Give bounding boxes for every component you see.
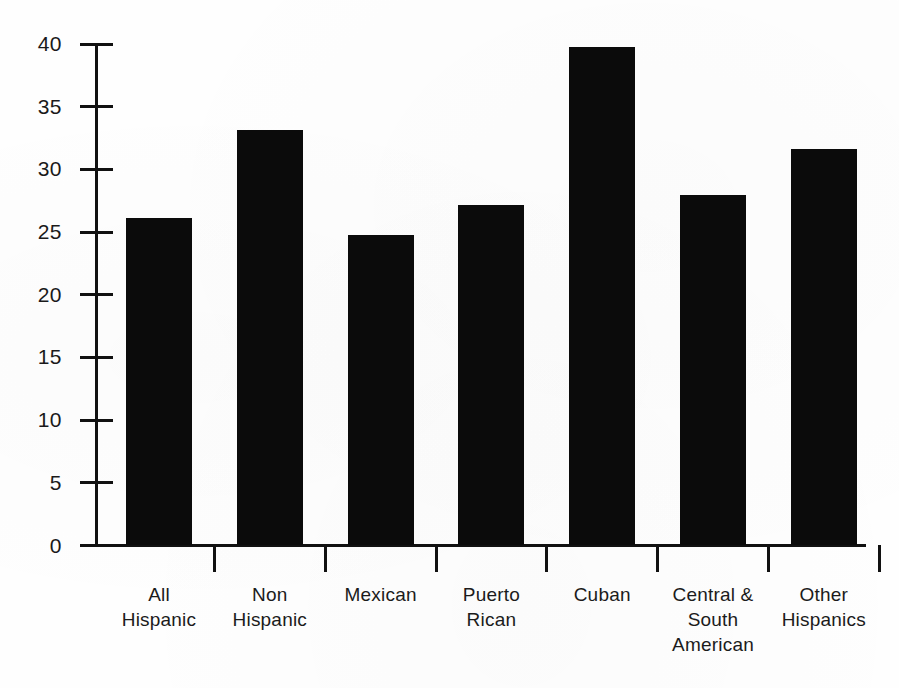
y-axis-tick: [80, 231, 113, 234]
y-axis-tick-label-text: 30: [18, 158, 62, 179]
y-axis-tick-label: 35: [12, 96, 62, 117]
x-axis-category-label-line: Hispanics: [749, 607, 899, 632]
y-axis-tick: [80, 43, 113, 46]
x-axis-category-label-line: American: [638, 632, 788, 657]
y-axis-tick-label: 30: [12, 158, 62, 179]
x-axis-category-label: OtherHispanics: [749, 582, 899, 632]
y-axis-tick-label-text: 40: [18, 33, 62, 54]
bar: [237, 130, 303, 545]
y-axis-tick-label-text: 25: [18, 221, 62, 242]
y-axis-tick-label: 25: [12, 221, 62, 242]
bar: [680, 195, 746, 545]
bar: [126, 218, 192, 545]
y-axis-tick-label: 10: [12, 409, 62, 430]
y-axis-tick-label: 20: [12, 284, 62, 305]
y-axis-tick: [80, 481, 113, 484]
x-axis-tick: [656, 545, 659, 572]
x-axis-category-label-line: Rican: [416, 607, 566, 632]
y-axis-tick-label-text: 35: [18, 96, 62, 117]
x-axis-category-label-line: Other: [749, 582, 899, 607]
y-axis-tick-label: 15: [12, 346, 62, 367]
x-axis-tick: [324, 545, 327, 572]
bar-chart: 0510152025303540 AllHispanicNonHispanicM…: [0, 0, 899, 688]
bar: [791, 149, 857, 545]
y-axis-tick-label-text: 20: [18, 284, 62, 305]
bar: [458, 205, 524, 545]
x-axis-tick: [878, 545, 881, 572]
y-axis-tick-label: 0: [12, 535, 62, 556]
x-axis-category-label-line: Hispanic: [195, 607, 345, 632]
y-axis-tick-label: 40: [12, 33, 62, 54]
y-axis-tick-label-text: 10: [18, 409, 62, 430]
bar: [348, 235, 414, 545]
bar: [569, 47, 635, 545]
x-axis-tick: [767, 545, 770, 572]
y-axis-tick: [80, 419, 113, 422]
y-axis-tick: [80, 293, 113, 296]
y-axis-tick: [80, 168, 113, 171]
x-axis-tick: [435, 545, 438, 572]
y-axis-tick: [80, 544, 113, 547]
y-axis-tick: [80, 356, 113, 359]
y-axis-tick-label-text: 15: [18, 346, 62, 367]
y-axis-tick-label-text: 0: [18, 535, 62, 556]
y-axis-tick-label: 5: [12, 472, 62, 493]
y-axis-tick-label-text: 5: [18, 472, 62, 493]
x-axis-tick: [545, 545, 548, 572]
x-axis-tick: [213, 545, 216, 572]
y-axis-tick: [80, 105, 113, 108]
